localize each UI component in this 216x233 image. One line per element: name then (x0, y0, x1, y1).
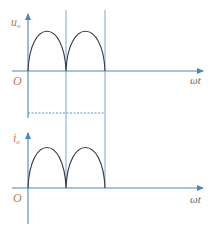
upper-x-label: ωt (190, 74, 202, 86)
upper-plot-output-voltage: uo O ωt (11, 14, 203, 118)
lower-origin-label: O (13, 191, 22, 205)
lower-x-label: ωt (190, 193, 202, 205)
rectifier-waveform-diagram: uo O ωt io O ωt (0, 0, 216, 233)
upper-origin-label: O (13, 74, 22, 88)
lower-y-label: io (13, 131, 20, 146)
lower-plot-output-current: io O ωt (12, 131, 203, 224)
upper-y-label: uo (11, 15, 21, 30)
